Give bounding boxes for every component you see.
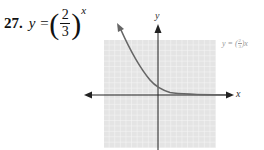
legend-prefix: y = ( xyxy=(222,39,238,48)
x-axis-left-arrow-icon xyxy=(84,92,92,99)
y-axis-up-arrow-icon xyxy=(155,24,162,33)
curve-arrow-icon xyxy=(117,23,124,32)
curve-legend: y = ( 2 3 )x xyxy=(222,38,248,49)
x-axis-label: x xyxy=(236,88,240,99)
legend-suffix: )x xyxy=(242,39,248,48)
x-axis-right-arrow-icon xyxy=(226,92,234,99)
graph xyxy=(0,0,264,150)
y-axis-label: y xyxy=(155,10,159,21)
legend-denominator: 3 xyxy=(238,44,241,49)
